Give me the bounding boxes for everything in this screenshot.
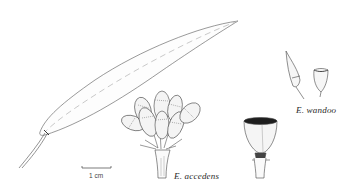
wandoo-bud-drawing xyxy=(286,51,304,99)
species-label-wandoo: E. wandoo xyxy=(296,106,336,115)
botanical-illustration xyxy=(0,0,361,191)
species-label-accedens: E. accedens xyxy=(174,172,219,181)
scale-bar xyxy=(82,166,111,168)
bud-cluster-drawing xyxy=(119,91,204,178)
fruit-drawing xyxy=(244,118,277,179)
scale-bar-label: 1 cm xyxy=(89,173,103,180)
wandoo-fruit-drawing xyxy=(314,69,328,98)
leaf-drawing xyxy=(19,21,238,168)
